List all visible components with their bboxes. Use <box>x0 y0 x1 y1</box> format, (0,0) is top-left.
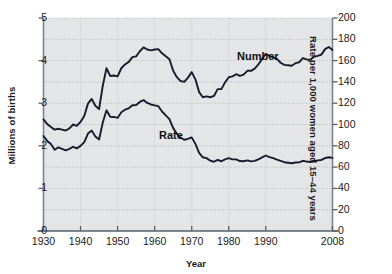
x-axis-title: Year <box>0 258 392 269</box>
y-axis-left-title: Millions of births <box>6 66 17 186</box>
series-annotation-rate: Rate <box>159 129 183 141</box>
y-axis-right-tick-label: 40 <box>338 181 378 193</box>
x-axis-tick-label: 1990 <box>236 235 296 247</box>
y-axis-right-tick-label: 180 <box>338 32 378 44</box>
y-axis-right-tick-label: 80 <box>338 139 378 151</box>
x-axis-tick-label: 2008 <box>303 235 363 247</box>
y-axis-right-title: Rate per 1,000 women aged 15–44 years <box>308 4 319 254</box>
plot-canvas <box>0 0 392 274</box>
chart-figure: Millions of births Rate per 1,000 women … <box>0 0 392 274</box>
y-axis-right-tick-label: 160 <box>338 54 378 66</box>
y-axis-right-tick-label: 140 <box>338 75 378 87</box>
y-axis-right-tick-label: 20 <box>338 203 378 215</box>
y-axis-left-tick-label: 1 <box>7 181 47 193</box>
plot-area-background <box>44 18 333 231</box>
y-axis-left-tick-label: 2 <box>7 139 47 151</box>
series-annotation-number: Number <box>237 50 279 62</box>
plot-background <box>44 18 333 231</box>
y-axis-left-tick-label: 5 <box>7 11 47 23</box>
y-axis-right-tick-label: 120 <box>338 96 378 108</box>
y-axis-right-tick-label: 200 <box>338 11 378 23</box>
y-axis-left-tick-label: 4 <box>7 54 47 66</box>
y-axis-right-tick-label: 100 <box>338 118 378 130</box>
y-axis-left-tick-label: 3 <box>7 96 47 108</box>
y-axis-right-tick-label: 60 <box>338 160 378 172</box>
